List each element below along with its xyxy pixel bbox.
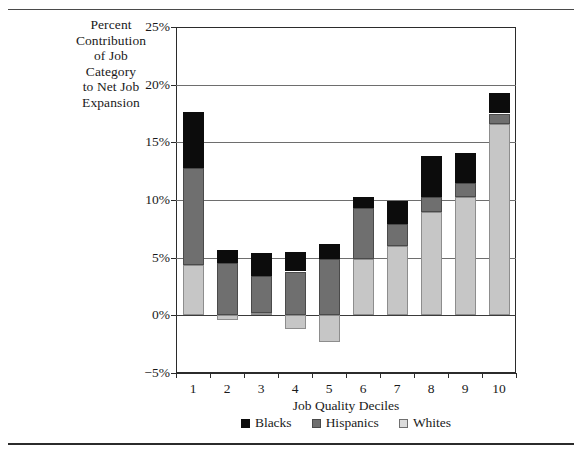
bar-segment-whites	[353, 259, 374, 316]
bar-segment-blacks	[455, 153, 476, 183]
bar-group-decile-6	[353, 27, 374, 373]
x-tick-mark	[448, 373, 449, 378]
plot-area	[176, 27, 516, 373]
bar-segment-whites	[421, 212, 442, 316]
bar-segment-whites	[285, 315, 306, 329]
bar-segment-blacks	[183, 112, 204, 167]
bar-group-decile-3	[251, 27, 272, 373]
legend-label: Blacks	[255, 416, 292, 430]
bar-group-decile-1	[183, 27, 204, 373]
legend-item-blacks[interactable]: Blacks	[241, 416, 292, 430]
bar-group-decile-4	[285, 27, 306, 373]
legend-swatch-blacks-icon	[241, 419, 250, 428]
bar-segment-blacks	[217, 250, 238, 264]
x-tick-mark	[244, 373, 245, 378]
legend-label: Whites	[413, 416, 451, 430]
bar-group-decile-10	[489, 27, 510, 373]
bar-segment-hispanics	[455, 183, 476, 197]
x-tick-label-9: 9	[448, 381, 482, 396]
bar-segment-whites	[455, 197, 476, 316]
bar-group-decile-9	[455, 27, 476, 373]
bar-group-decile-8	[421, 27, 442, 373]
bar-segment-hispanics	[217, 263, 238, 315]
bar-series-container	[176, 27, 516, 373]
bar-segment-whites	[387, 246, 408, 315]
y-tick-label: 0%	[124, 308, 170, 322]
x-tick-label-1: 1	[176, 381, 210, 396]
bar-segment-blacks	[489, 93, 510, 114]
bar-group-decile-7	[387, 27, 408, 373]
x-tick-label-4: 4	[278, 381, 312, 396]
bar-segment-hispanics	[489, 114, 510, 124]
y-tick-label: 20%	[124, 78, 170, 92]
legend-swatch-hispanics-icon	[312, 419, 321, 428]
y-tick-mark	[171, 27, 176, 28]
bar-segment-blacks	[251, 253, 272, 276]
stacked-bar-chart-figure: Percent Contribution of Job Category to …	[0, 0, 582, 457]
x-tick-mark	[278, 373, 279, 378]
x-tick-label-7: 7	[380, 381, 414, 396]
x-axis-title: Job Quality Deciles	[176, 398, 516, 413]
legend-item-hispanics[interactable]: Hispanics	[312, 416, 379, 430]
bar-segment-whites	[251, 313, 272, 315]
y-tick-label: 10%	[124, 193, 170, 207]
x-tick-label-10: 10	[482, 381, 516, 396]
y-axis-title-line: Contribution	[56, 33, 166, 49]
y-tick-label: 25%	[124, 20, 170, 34]
y-tick-label: 15%	[124, 135, 170, 149]
y-axis-title-line: Expansion	[56, 95, 166, 111]
x-tick-mark	[380, 373, 381, 378]
x-tick-label-3: 3	[244, 381, 278, 396]
legend-swatch-whites-icon	[399, 419, 408, 428]
chart-legend: BlacksHispanicsWhites	[176, 416, 516, 430]
x-tick-label-6: 6	[346, 381, 380, 396]
bar-segment-whites	[217, 315, 238, 320]
bar-segment-blacks	[353, 197, 374, 209]
y-tick-mark	[171, 142, 176, 143]
y-tick-mark	[171, 200, 176, 201]
bar-segment-hispanics	[251, 276, 272, 313]
bar-group-decile-2	[217, 27, 238, 373]
x-tick-mark	[346, 373, 347, 378]
legend-label: Hispanics	[326, 416, 379, 430]
bar-segment-whites	[183, 265, 204, 316]
bar-segment-hispanics	[353, 208, 374, 259]
x-tick-mark	[482, 373, 483, 378]
x-tick-label-2: 2	[210, 381, 244, 396]
bar-segment-hispanics	[183, 168, 204, 265]
x-tick-mark	[312, 373, 313, 378]
x-tick-mark	[176, 373, 177, 378]
y-tick-mark	[171, 258, 176, 259]
x-tick-mark	[414, 373, 415, 378]
bar-segment-whites	[319, 315, 340, 342]
y-tick-label: −5%	[124, 366, 170, 380]
x-tick-mark	[210, 373, 211, 378]
bar-segment-whites	[489, 124, 510, 315]
y-axis-title-line: of Job	[56, 48, 166, 64]
bar-segment-blacks	[387, 201, 408, 224]
x-tick-mark	[516, 373, 517, 378]
bar-segment-hispanics	[319, 259, 340, 316]
bar-segment-hispanics	[285, 272, 306, 316]
bar-segment-blacks	[285, 252, 306, 272]
bar-segment-hispanics	[421, 197, 442, 212]
y-tick-label: 5%	[124, 251, 170, 265]
x-tick-label-8: 8	[414, 381, 448, 396]
legend-item-whites[interactable]: Whites	[399, 416, 451, 430]
bar-segment-hispanics	[387, 224, 408, 246]
y-tick-mark	[171, 315, 176, 316]
y-tick-mark	[171, 85, 176, 86]
bar-group-decile-5	[319, 27, 340, 373]
bar-segment-blacks	[421, 156, 442, 196]
x-tick-label-5: 5	[312, 381, 346, 396]
bar-segment-blacks	[319, 244, 340, 259]
